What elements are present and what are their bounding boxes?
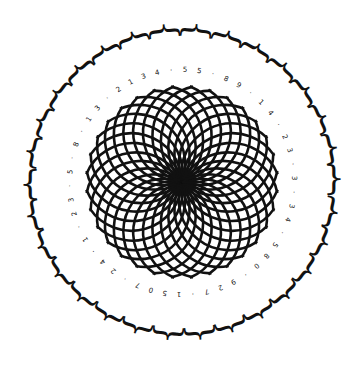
digit-label: 4 — [283, 216, 292, 223]
digit-label: · — [191, 289, 194, 297]
digit-label: 2 — [115, 85, 123, 94]
digit-label: · — [90, 248, 98, 255]
digit-label: · — [170, 66, 173, 74]
digit-label: · — [290, 191, 298, 194]
digit-label: 5 — [196, 67, 202, 76]
digit-label: 4 — [266, 109, 275, 118]
digit-label: 3 — [290, 176, 298, 181]
digit-label: 1 — [85, 115, 94, 123]
digit-label: 8 — [262, 252, 271, 261]
digit-label: 1 — [81, 235, 90, 243]
digit-label: 7 — [204, 287, 210, 296]
digit-label: 2 — [70, 210, 79, 217]
digit-label: 9 — [229, 277, 237, 286]
digit-label: 2 — [217, 283, 224, 292]
digit-label: · — [75, 224, 83, 229]
digit-label: 5 — [66, 169, 74, 174]
digit-label: 3 — [67, 197, 76, 203]
digit-label: 3 — [285, 147, 294, 154]
rosette-arcs — [86, 86, 277, 277]
digit-label: · — [289, 162, 297, 165]
digit-label: 0 — [252, 261, 261, 270]
digit-label: 1 — [257, 98, 266, 107]
digit-label: 2 — [280, 133, 289, 140]
curly-brace-glyph: { — [316, 129, 345, 173]
digit-label: 4 — [154, 68, 161, 77]
digit-label: · — [66, 185, 74, 188]
digit-label: 8 — [72, 141, 81, 148]
digit-label: · — [278, 230, 286, 236]
digit-label: 2 — [109, 266, 117, 275]
digit-label: · — [68, 156, 76, 160]
digit-label: 1 — [177, 290, 182, 298]
digit-label: 0 — [148, 285, 155, 294]
digit-label: 3 — [287, 203, 296, 209]
digit-label: 8 — [223, 74, 230, 83]
digit-label: · — [104, 94, 111, 101]
digit-label: 1 — [127, 78, 135, 87]
digit-label: · — [78, 129, 86, 135]
digit-label: 5 — [162, 288, 168, 297]
digit-label: · — [211, 70, 215, 78]
digit-label: · — [242, 271, 248, 279]
digit-label: 4 — [98, 257, 107, 266]
digit-label: 9 — [235, 81, 243, 90]
digit-label: · — [247, 89, 254, 97]
digit-label: 5 — [270, 241, 279, 249]
digit-label: 3 — [140, 72, 147, 81]
digit-label: 5 — [183, 66, 188, 74]
digit-label: 3 — [93, 104, 102, 113]
digit-label: 7 — [134, 280, 141, 289]
rosette-diagram: 34·55·89·14·23·3·34·580·927·1507·24·1·23… — [0, 0, 364, 370]
digit-label: · — [274, 122, 282, 128]
digit-label: · — [122, 275, 128, 283]
